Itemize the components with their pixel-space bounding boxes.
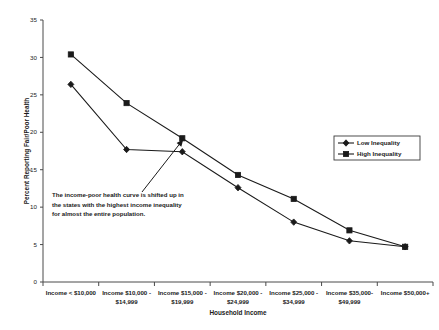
- x-axis-tick-label: Income $20,000 -: [214, 289, 263, 296]
- y-axis-title: Percent Reporting Fair/Poor Health: [23, 98, 31, 205]
- x-axis-tick-label: $19,999: [171, 298, 194, 305]
- x-axis-tick-label: $49,999: [338, 298, 361, 305]
- data-point-square-marker: [343, 151, 348, 156]
- data-point-diamond-marker: [346, 238, 352, 244]
- chart-legend[interactable]: Low InequalityHigh Inequality: [334, 136, 420, 160]
- annotation-text-line: the states with the highest income inequ…: [52, 201, 182, 208]
- data-point-square-marker: [347, 228, 352, 233]
- data-point-square-marker: [403, 244, 408, 249]
- data-point-diamond-marker: [291, 219, 297, 225]
- x-axis-ticks: Income < $10,000Income $10,000 -$14,999I…: [43, 282, 433, 305]
- data-point-square-marker: [68, 52, 73, 57]
- legend-item-label: Low Inequality: [357, 139, 401, 146]
- data-point-square-marker: [124, 100, 129, 105]
- x-axis-tick-label: Income $10,000 -: [102, 289, 151, 296]
- x-axis-tick-label: $24,999: [227, 298, 250, 305]
- y-axis-tick-label: 30: [30, 54, 37, 61]
- y-axis-tick-label: 15: [30, 166, 37, 173]
- y-axis-group: 05101520253035: [30, 16, 43, 285]
- annotation-arrow-line: [142, 139, 183, 192]
- x-axis-tick-label: Income < $10,000: [46, 289, 97, 296]
- y-axis-ticks: 05101520253035: [30, 16, 43, 285]
- legend-item-label: High Inequality: [357, 150, 402, 157]
- chart-container: 05101520253035 Income < $10,000Income $1…: [0, 0, 439, 330]
- annotation-text-line: The income-poor health curve is shifted …: [52, 191, 184, 198]
- x-axis-group: Income < $10,000Income $10,000 -$14,999I…: [43, 282, 433, 305]
- series-polyline: [71, 84, 405, 246]
- y-axis-tick-label: 0: [34, 278, 38, 285]
- x-axis-title: Household Income: [209, 309, 267, 316]
- x-axis-tick-label: Income $35,000-: [326, 289, 373, 296]
- y-axis-tick-label: 5: [34, 241, 38, 248]
- x-axis-tick-label: Income $25,000 -: [269, 289, 318, 296]
- data-point-square-marker: [291, 196, 296, 201]
- y-axis-tick-label: 35: [30, 16, 37, 23]
- data-point-diamond-marker: [235, 184, 241, 190]
- y-axis-tick-label: 20: [30, 128, 37, 135]
- series-low-inequality: [68, 81, 408, 250]
- x-axis-tick-label: Income $50,000+: [381, 289, 430, 296]
- y-axis-tick-label: 25: [30, 91, 37, 98]
- data-point-diamond-marker: [179, 149, 185, 155]
- x-axis-tick-label: Income $15,000 -: [158, 289, 207, 296]
- annotation-text-line: for almost the entire population.: [52, 210, 145, 217]
- x-axis-tick-label: $14,999: [116, 298, 139, 305]
- line-chart: 05101520253035 Income < $10,000Income $1…: [0, 0, 439, 330]
- x-axis-tick-label: $34,999: [283, 298, 306, 305]
- data-point-square-marker: [235, 172, 240, 177]
- y-axis-tick-label: 10: [30, 203, 37, 210]
